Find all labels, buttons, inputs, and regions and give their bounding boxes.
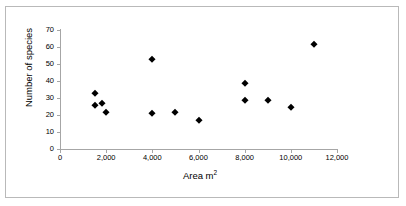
data-point xyxy=(311,40,317,46)
y-tick-label: 0 xyxy=(36,145,54,153)
y-tick-label: 30 xyxy=(36,94,54,102)
data-point xyxy=(91,102,97,108)
data-point xyxy=(241,96,247,102)
data-point xyxy=(195,117,201,123)
x-tick-label: 4,000 xyxy=(132,154,172,162)
x-tick-label: 12,000 xyxy=(317,154,357,162)
y-tick-label: 20 xyxy=(36,111,54,119)
y-tick-label: 50 xyxy=(36,60,54,68)
data-point xyxy=(241,79,247,85)
x-tick-label: 0 xyxy=(40,154,80,162)
data-point xyxy=(172,108,178,114)
x-tick-label: 2,000 xyxy=(86,154,126,162)
y-tick-label: 60 xyxy=(36,43,54,51)
y-tick-label: 10 xyxy=(36,128,54,136)
x-tick-label: 8,000 xyxy=(225,154,265,162)
scatter-plot-figure: 010203040506070 02,0004,0006,0008,00010,… xyxy=(0,0,406,206)
x-axis-title-superscript: 2 xyxy=(214,169,218,176)
y-tick-label: 70 xyxy=(36,26,54,34)
data-point xyxy=(149,56,155,62)
x-tick-label: 10,000 xyxy=(271,154,311,162)
data-point xyxy=(265,96,271,102)
plot-area xyxy=(60,30,337,149)
x-axis-title-text: Area m xyxy=(183,170,214,181)
data-point xyxy=(149,110,155,116)
data-point xyxy=(288,103,294,109)
y-axis-title: Number of species xyxy=(23,8,34,128)
x-axis-title: Area m2 xyxy=(120,170,280,181)
data-point xyxy=(98,100,104,106)
y-tick-label: 40 xyxy=(36,77,54,85)
data-point xyxy=(91,90,97,96)
x-tick-label: 6,000 xyxy=(179,154,219,162)
data-point xyxy=(103,108,109,114)
